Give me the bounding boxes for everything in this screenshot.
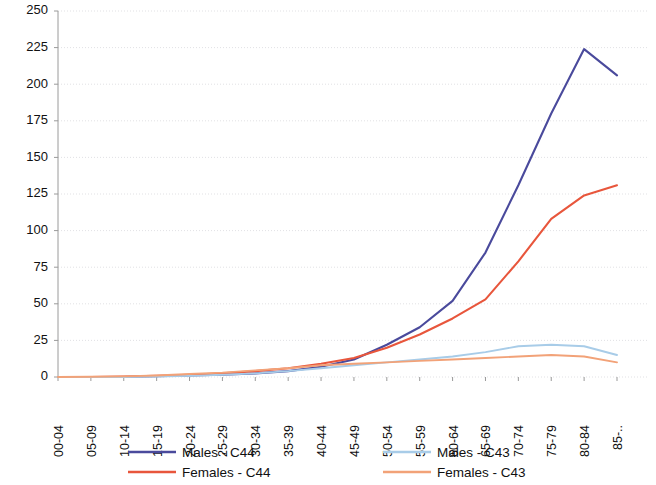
y-tick-label: 200 — [26, 76, 48, 91]
legend-label: Females - C44 — [182, 465, 271, 480]
y-tick-label: 100 — [26, 222, 48, 237]
x-tick-label: 75-79 — [545, 425, 559, 457]
x-tick-label: 35-39 — [282, 425, 296, 457]
y-tick-label: 75 — [34, 259, 48, 274]
y-tick-label: 150 — [26, 149, 48, 164]
legend-label: Females - C43 — [437, 465, 526, 480]
legend-label: Males - C43 — [437, 445, 510, 460]
legend-label: Males - C44 — [182, 445, 255, 460]
y-tick-label: 50 — [34, 295, 48, 310]
x-tick-label: 80-84 — [578, 425, 592, 457]
y-tick-label: 125 — [26, 185, 48, 200]
x-tick-label: 05-09 — [85, 425, 99, 457]
y-tick-label: 25 — [34, 332, 48, 347]
line-chart: 0255075100125150175200225250 00-0405-091… — [0, 0, 656, 485]
x-tick-label: 70-74 — [512, 425, 526, 457]
y-tick-label: 0 — [41, 368, 48, 383]
x-tick-label: 85-.. — [611, 425, 625, 450]
chart-background — [0, 0, 656, 485]
x-tick-label: 45-49 — [348, 425, 362, 457]
x-tick-label: 00-04 — [52, 425, 66, 457]
y-tick-label: 175 — [26, 112, 48, 127]
x-tick-label: 40-44 — [315, 425, 329, 457]
chart-container: 0255075100125150175200225250 00-0405-091… — [0, 0, 656, 485]
y-tick-label: 250 — [26, 2, 48, 17]
y-tick-label: 225 — [26, 39, 48, 54]
